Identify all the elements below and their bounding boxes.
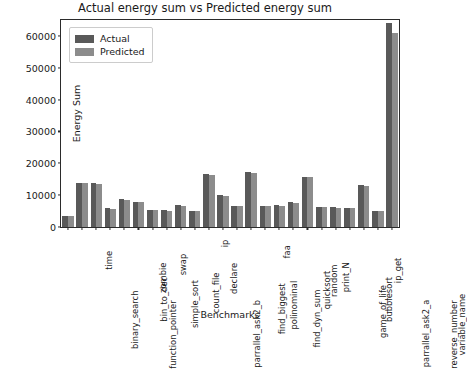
bar-predicted [223, 196, 229, 227]
y-tick-mark [58, 99, 61, 100]
x-tick-mark [265, 227, 266, 230]
bar-predicted [195, 211, 201, 227]
x-tick-mark [349, 227, 350, 230]
y-tick-mark [58, 163, 61, 164]
x-tick-mark [166, 227, 167, 230]
bar-predicted [251, 173, 257, 227]
x-tick-label: parrallel_ask2_b [252, 300, 262, 368]
bar-predicted [68, 216, 74, 227]
x-tick-mark [82, 227, 83, 230]
bar-predicted [293, 203, 299, 227]
x-tick-mark [138, 227, 139, 230]
x-tick-mark [96, 227, 97, 230]
bar-predicted [138, 202, 144, 227]
y-tick-label: 0 [50, 222, 56, 233]
y-tick-mark [58, 195, 61, 196]
x-tick-label: faa [282, 245, 292, 258]
x-tick-label: variable_name [457, 294, 467, 356]
x-tick-label: simple_sort [190, 280, 200, 328]
y-tick-label: 20000 [26, 158, 56, 169]
x-tick-mark [293, 227, 294, 230]
y-tick-label: 50000 [26, 62, 56, 73]
y-tick-label: 40000 [26, 94, 56, 105]
x-tick-mark [321, 227, 322, 230]
x-tick-mark [391, 227, 392, 230]
legend-label-predicted: Predicted [100, 46, 145, 57]
bar-predicted [392, 33, 398, 227]
chart-title: Actual energy sum vs Predicted energy su… [0, 1, 410, 15]
x-tick-mark [279, 227, 280, 230]
x-tick-mark [194, 227, 195, 230]
bar-predicted [378, 211, 384, 227]
bar-predicted [209, 175, 215, 227]
bar-predicted [279, 206, 285, 227]
y-tick-mark [58, 131, 61, 132]
plot-area: Energy Sum Benchmarks Actual Predicted 0… [60, 19, 400, 228]
legend-label-actual: Actual [100, 33, 130, 44]
bar-predicted [124, 200, 130, 227]
x-axis-label: Benchmarks [61, 309, 399, 320]
x-tick-mark [208, 227, 209, 230]
legend-item-predicted: Predicted [75, 45, 145, 58]
chart-legend: Actual Predicted [69, 27, 153, 63]
x-tick-label: parrallel_ask2_a [421, 300, 431, 368]
y-tick-mark [58, 226, 61, 227]
x-tick-label: declare [229, 263, 239, 294]
bar-predicted [110, 209, 116, 227]
x-tick-label: function_pointer [168, 300, 178, 368]
x-tick-label: count_file [211, 273, 221, 314]
bar-predicted [181, 206, 187, 227]
bar-predicted [350, 208, 356, 227]
x-tick-mark [335, 227, 336, 230]
y-tick-mark [58, 35, 61, 36]
x-tick-label: polinominal [289, 281, 299, 330]
x-tick-label: bubblesort [384, 277, 394, 322]
legend-item-actual: Actual [75, 32, 145, 45]
legend-swatch-predicted-icon [75, 48, 94, 56]
bar-predicted [153, 210, 159, 227]
x-tick-mark [124, 227, 125, 230]
bar-predicted [364, 186, 370, 227]
x-tick-label: zombie [158, 262, 168, 292]
x-tick-label: ip_get [393, 258, 403, 284]
x-tick-mark [307, 227, 308, 230]
x-tick-mark [363, 227, 364, 230]
x-tick-label: print_N [341, 262, 351, 292]
bar-predicted [322, 207, 328, 227]
x-tick-label: swap [178, 254, 188, 276]
y-tick-label: 10000 [26, 190, 56, 201]
bar-predicted [237, 206, 243, 227]
x-tick-mark [222, 227, 223, 230]
y-tick-label: 60000 [26, 30, 56, 41]
x-tick-mark [152, 227, 153, 230]
x-tick-mark [377, 227, 378, 230]
x-tick-label: random [329, 264, 339, 296]
bar-predicted [265, 206, 271, 227]
bar-predicted [167, 211, 173, 227]
y-tick-label: 30000 [26, 126, 56, 137]
x-tick-mark [251, 227, 252, 230]
x-tick-label: binary_search [130, 291, 140, 350]
y-tick-mark [58, 67, 61, 68]
x-tick-mark [180, 227, 181, 230]
x-tick-mark [67, 227, 68, 230]
bar-predicted [307, 177, 313, 227]
x-tick-label: find_dyn_sum [312, 290, 322, 348]
x-tick-mark [110, 227, 111, 230]
x-tick-mark [236, 227, 237, 230]
bar-predicted [82, 183, 88, 227]
legend-swatch-actual-icon [75, 35, 94, 43]
x-tick-label: find_biggest [277, 283, 287, 334]
x-tick-label: time [104, 251, 114, 270]
x-tick-label: ip [220, 240, 230, 248]
bar-predicted [336, 208, 342, 227]
bar-predicted [96, 184, 102, 227]
